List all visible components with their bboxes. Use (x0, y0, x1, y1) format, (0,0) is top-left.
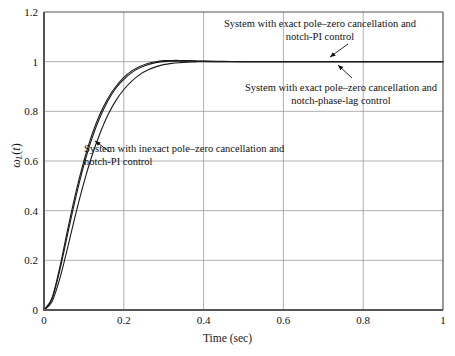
annotation-line-2: notch-PI control (84, 156, 314, 169)
x-axis-label: Time (sec) (0, 332, 455, 344)
x-tick-label: 0.4 (197, 314, 211, 326)
annotation-inexact-notch-pi: System with inexact pole–zero cancellati… (84, 143, 314, 168)
annotation-line-2: notch-PI control (197, 31, 443, 44)
y-tick-label: 0.8 (10, 105, 38, 117)
annotation-exact-notch-pi: System with exact pole–zero cancellation… (197, 18, 443, 43)
annotation-line-2: notch-phase-lag control (227, 95, 455, 108)
x-tick-label: 0 (41, 314, 47, 326)
y-tick-label: 1 (10, 56, 38, 68)
x-tick-label: 0.8 (356, 314, 370, 326)
x-tick-label: 0.6 (277, 314, 291, 326)
annotation-exact-notch-phase-lag: System with exact pole–zero cancellation… (227, 82, 455, 107)
y-tick-label: 0.2 (10, 254, 38, 266)
plot-canvas (0, 0, 455, 356)
x-tick-label: 1 (440, 314, 446, 326)
y-tick-label: 0.4 (10, 205, 38, 217)
annotation-line-1: System with exact pole–zero cancellation… (227, 82, 455, 95)
y-axis-label: ωL(t) (9, 126, 24, 186)
annotation-line-1: System with inexact pole–zero cancellati… (84, 143, 314, 156)
y-tick-label: 0 (10, 304, 38, 316)
x-tick-label: 0.2 (117, 314, 131, 326)
annotation-line-1: System with exact pole–zero cancellation… (197, 18, 443, 31)
y-tick-label: 1.2 (10, 6, 38, 18)
chart-figure: 00.20.40.60.811.2 00.20.40.60.81 ωL(t) T… (0, 0, 455, 356)
